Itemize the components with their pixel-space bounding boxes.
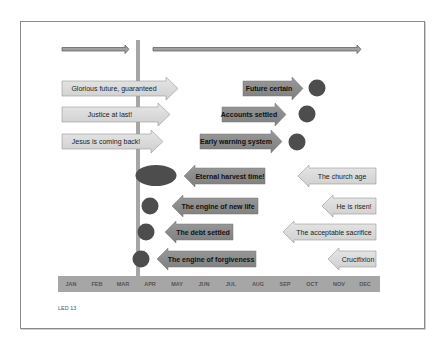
event-arrow-1: The church age	[298, 165, 376, 187]
svg-text:Future certain: Future certain	[246, 85, 293, 92]
svg-text:The engine of forgiveness: The engine of forgiveness	[168, 256, 255, 264]
engine-arrow-2: The engine of new life	[142, 195, 259, 217]
svg-text:Accounts settled: Accounts settled	[221, 111, 277, 118]
month-label: MAR	[117, 281, 130, 287]
event-arrow-4: Crucifixion	[328, 248, 376, 270]
event-circle	[289, 134, 306, 151]
month-label: OCT	[306, 281, 318, 287]
event-arrow-3: The acceptable sacrifice	[283, 221, 376, 243]
engine-arrow-3: The debt settled	[138, 221, 234, 243]
present-divider-bar	[136, 40, 140, 277]
month-label: MAY	[171, 281, 183, 287]
svg-text:Justice at last!: Justice at last!	[88, 111, 132, 118]
engine-arrow-1: Eternal harvest time!	[136, 165, 266, 187]
future-arrow-2: Justice at last!	[62, 103, 170, 126]
month-label: JUL	[226, 281, 237, 287]
svg-text:The engine of new life: The engine of new life	[181, 203, 254, 211]
month-label: APR	[144, 281, 156, 287]
future-arrow-3: Jesus is coming back!	[62, 130, 163, 153]
event-circle	[299, 106, 316, 123]
month-label: AUG	[252, 281, 264, 287]
svg-text:Early warning system: Early warning system	[200, 138, 272, 146]
timeline-future-arrow	[153, 45, 361, 54]
mid-arrow-3: Early warning system	[200, 130, 306, 153]
svg-text:Glorious future, guaranteed: Glorious future, guaranteed	[71, 85, 156, 93]
footer-label: LED 13	[58, 305, 76, 311]
svg-text:Jesus is coming back!: Jesus is coming back!	[72, 138, 141, 146]
timeline-diagram: Glorious future, guaranteed Justice at l…	[0, 0, 443, 346]
future-arrow-1: Glorious future, guaranteed	[62, 77, 178, 100]
month-label: JUN	[198, 281, 209, 287]
svg-text:The acceptable sacrifice: The acceptable sacrifice	[296, 229, 372, 237]
event-circle	[133, 251, 150, 268]
month-label: JAN	[65, 281, 76, 287]
svg-text:The debt settled: The debt settled	[176, 229, 230, 236]
svg-text:The church age: The church age	[318, 173, 367, 181]
mid-arrow-1: Future certain	[243, 77, 326, 100]
month-label: SEP	[279, 281, 290, 287]
svg-text:Crucifixion: Crucifixion	[342, 256, 375, 263]
timeline-past-arrow	[62, 45, 129, 54]
event-circle	[142, 198, 159, 215]
engine-arrow-4: The engine of forgiveness	[133, 248, 257, 270]
month-label: NOV	[333, 281, 345, 287]
event-circle	[138, 224, 155, 241]
svg-text:Eternal harvest time!: Eternal harvest time!	[195, 173, 264, 180]
event-arrow-2: He is risen!	[322, 195, 376, 217]
month-label: FEB	[92, 281, 103, 287]
event-circle	[309, 80, 326, 97]
month-bar: JAN FEB MAR APR MAY JUN JUL AUG SEP OCT …	[58, 276, 380, 292]
event-ellipse	[136, 165, 177, 186]
month-label: DEC	[359, 281, 371, 287]
svg-text:He is risen!: He is risen!	[336, 203, 371, 210]
mid-arrow-2: Accounts settled	[221, 103, 316, 126]
